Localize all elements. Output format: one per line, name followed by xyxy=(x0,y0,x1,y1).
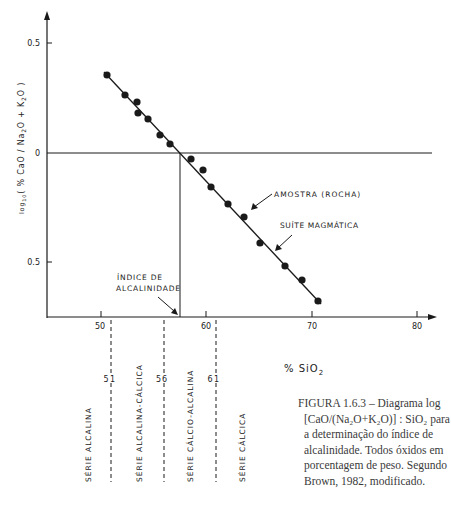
annotation-suite-arrow xyxy=(278,235,292,248)
caption-line: alcalinidade. Todos óxidos em xyxy=(298,443,448,459)
data-point xyxy=(121,91,128,98)
data-point xyxy=(133,98,140,105)
annotation-suite: SUÍTE MAGMÁTICA xyxy=(280,221,359,230)
data-point xyxy=(207,183,214,190)
data-point xyxy=(156,131,163,138)
y-axis-arrow-icon xyxy=(44,11,50,20)
data-point xyxy=(187,155,194,162)
boundary-label-56: 56 xyxy=(156,375,168,384)
caption-line: [CaO/(Na₂O+K₂O)] : SiO₂ para xyxy=(298,412,448,428)
caption-line: porcentagem de peso. Segundo xyxy=(298,458,448,474)
x-axis-arrow-icon xyxy=(428,314,437,320)
series-label-alcalina-calcica: SÉRIE ALCALINA-CÁLCICA xyxy=(135,364,144,482)
data-point xyxy=(144,115,151,122)
y-tick-label-zero: 0 xyxy=(35,149,40,158)
x-tick-label-80: 80 xyxy=(412,322,422,331)
y-tick-label-top: 0.5 xyxy=(27,39,40,48)
svg-text:log10( % CaO / Na2O + K2O ): log10( % CaO / Na2O + K2O ) xyxy=(17,82,27,214)
arrow-icon xyxy=(251,203,258,210)
x-tick-label-60: 60 xyxy=(201,322,211,331)
boundary-label-61: 61 xyxy=(207,375,220,384)
data-point xyxy=(134,109,141,116)
y-tick-label-bottom: 0.5 xyxy=(27,258,40,267)
annotation-indice-line1: ÍNDICE DE xyxy=(117,273,163,282)
data-point xyxy=(298,276,305,283)
y-axis-label: log10( % CaO / Na2O + K2O ) xyxy=(17,82,27,214)
annotation-indice-arrow xyxy=(158,297,174,311)
figure-caption: FIGURA 1.6.3 – Diagrama log [CaO/(Na₂O+K… xyxy=(298,396,448,489)
data-point xyxy=(281,262,288,269)
data-point xyxy=(256,239,263,246)
annotation-amostra: AMOSTRA (ROCHA) xyxy=(274,190,361,199)
caption-line: FIGURA 1.6.3 – Diagrama log xyxy=(298,396,448,412)
x-tick-label-70: 70 xyxy=(307,322,317,331)
series-label-alcalina: SÉRIE ALCALINA xyxy=(84,407,93,482)
data-point xyxy=(199,166,206,173)
data-point xyxy=(166,140,173,147)
series-label-calcica: SÉRIE CÁLCICA xyxy=(238,413,247,482)
data-point xyxy=(103,71,110,78)
series-label-calcio-alcalina: SÉRIE CÁLCIO-ALCALINA xyxy=(186,369,195,482)
x-tick-label-50: 50 xyxy=(95,322,105,331)
boundary-label-51: 51 xyxy=(103,375,116,384)
annotation-amostra-arrow xyxy=(254,194,272,207)
data-point xyxy=(224,200,231,207)
data-point xyxy=(314,297,321,304)
data-point xyxy=(240,213,247,220)
caption-line: a determinação do índice de xyxy=(298,427,448,443)
x-axis-label: % SiO2 xyxy=(284,363,324,377)
annotation-indice-line2: ALCALINIDADE xyxy=(116,284,181,293)
caption-line: Brown, 1982, modificado. xyxy=(298,474,448,490)
